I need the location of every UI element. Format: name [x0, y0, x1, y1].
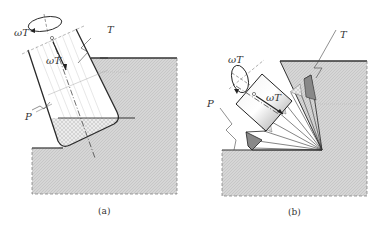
tool-label-a: T: [107, 24, 115, 35]
rotation-arrow-icon-a: [27, 14, 63, 34]
part-label-a: P: [24, 111, 32, 122]
tool-label-b: T: [340, 29, 348, 40]
panel-a: ωT ωT T P (a): [0, 14, 200, 216]
omega-label-top-a: ωT: [14, 27, 30, 38]
workpiece-b: [222, 61, 367, 196]
caption-b: (b): [288, 207, 301, 217]
figure-canvas: ωT ωT T P (a): [0, 0, 384, 230]
part-label-b: P: [206, 98, 214, 109]
caption-a: (a): [98, 206, 110, 216]
omega-label-axis-b: ωT: [266, 92, 282, 103]
omega-label-top-b: ωT: [228, 54, 244, 65]
tool-b: [229, 60, 292, 150]
panel-b: ωT ωT T P (b): [206, 29, 367, 217]
omega-label-axis-a: ωT: [46, 55, 62, 66]
